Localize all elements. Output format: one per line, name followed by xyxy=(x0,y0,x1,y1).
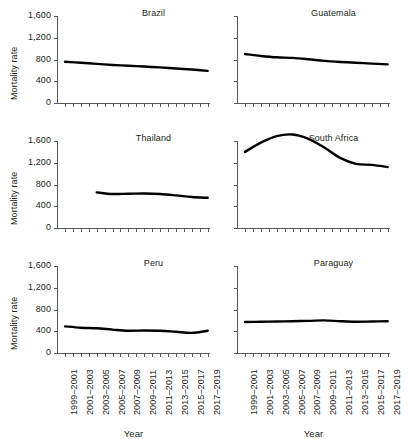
plot-area xyxy=(237,141,390,234)
y-axis-title: Mortality rate xyxy=(9,172,19,225)
x-tick-label: 2017–2019 xyxy=(212,369,222,415)
x-tick-label: 1999–2001 xyxy=(249,369,259,415)
y-axis-title: Mortality rate xyxy=(9,297,19,350)
axis-spine xyxy=(58,141,211,229)
plot-area xyxy=(57,266,210,359)
x-tick-label: 2003–2005 xyxy=(101,369,111,415)
x-tick-label: 2011–2013 xyxy=(344,370,354,415)
y-tick-label: 1,600 xyxy=(13,260,51,270)
x-tick-label: 2007–2009 xyxy=(312,369,322,415)
y-tick-label: 1,200 xyxy=(13,157,51,167)
panel-peru xyxy=(57,266,210,353)
x-tick-label: 2013–2015 xyxy=(360,369,370,415)
x-tick-label: 2005–2007 xyxy=(117,369,127,415)
x-tick-label: 1999–2001 xyxy=(69,369,79,415)
series-line-thailand xyxy=(97,192,208,197)
axis-spine xyxy=(58,266,211,354)
axis-spine xyxy=(238,266,391,354)
y-tick-label: 1,200 xyxy=(13,32,51,42)
series-line-paraguay xyxy=(245,320,388,322)
panel-thailand xyxy=(57,141,210,228)
x-tick-label: 2011–2013 xyxy=(164,370,174,415)
x-tick-label: 2005–2007 xyxy=(297,369,307,415)
y-tick-label: 1,600 xyxy=(13,10,51,20)
y-tick-label: 1,600 xyxy=(13,135,51,145)
series-line-brazil xyxy=(65,62,208,71)
plot-area xyxy=(237,266,390,359)
y-tick-label: 1,200 xyxy=(13,282,51,292)
panel-title-paraguay: Paraguay xyxy=(267,258,400,268)
x-tick-label: 2015–2017 xyxy=(196,369,206,415)
x-tick-label: 2015–2017 xyxy=(376,369,386,415)
y-axis-title: Mortality rate xyxy=(9,47,19,100)
panel-title-guatemala: Guatemala xyxy=(267,8,400,18)
x-tick-label: 2017–2019 xyxy=(392,369,402,415)
plot-area xyxy=(57,16,210,109)
x-tick-label: 2009–2011 xyxy=(328,370,338,415)
series-line-peru xyxy=(65,326,208,333)
plot-area xyxy=(237,16,390,109)
panel-guatemala xyxy=(237,16,390,103)
x-axis-title: Year xyxy=(254,428,374,439)
x-tick-label: 2003–2005 xyxy=(281,369,291,415)
axis-spine xyxy=(58,16,211,104)
panel-title-south-africa: South Africa xyxy=(267,133,400,143)
panel-paraguay xyxy=(237,266,390,353)
x-axis-title: Year xyxy=(74,428,194,439)
panel-brazil xyxy=(57,16,210,103)
panel-title-thailand: Thailand xyxy=(87,133,220,143)
x-tick-label: 2001–2003 xyxy=(85,369,95,415)
x-tick-label: 2009–2011 xyxy=(148,370,158,415)
x-tick-label: 2007–2009 xyxy=(132,369,142,415)
plot-area xyxy=(57,141,210,234)
x-tick-label: 2013–2015 xyxy=(180,369,190,415)
axis-spine xyxy=(238,141,391,229)
series-line-guatemala xyxy=(245,54,388,64)
panel-title-peru: Peru xyxy=(87,258,220,268)
panel-south-africa xyxy=(237,141,390,228)
panel-title-brazil: Brazil xyxy=(87,8,220,18)
x-tick-label: 2001–2003 xyxy=(265,369,275,415)
